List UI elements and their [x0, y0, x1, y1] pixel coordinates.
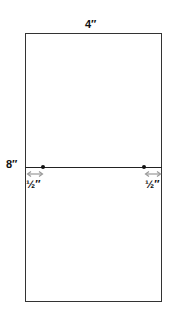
right-marker-dot — [142, 165, 146, 169]
right-margin-arrow-icon — [144, 171, 162, 177]
left-margin-label: ½″ — [26, 179, 40, 190]
height-label: 8″ — [6, 159, 17, 170]
left-margin-arrow-icon — [26, 171, 44, 177]
width-label: 4″ — [85, 19, 96, 30]
right-margin-label: ½″ — [145, 179, 159, 190]
left-marker-dot — [41, 165, 45, 169]
